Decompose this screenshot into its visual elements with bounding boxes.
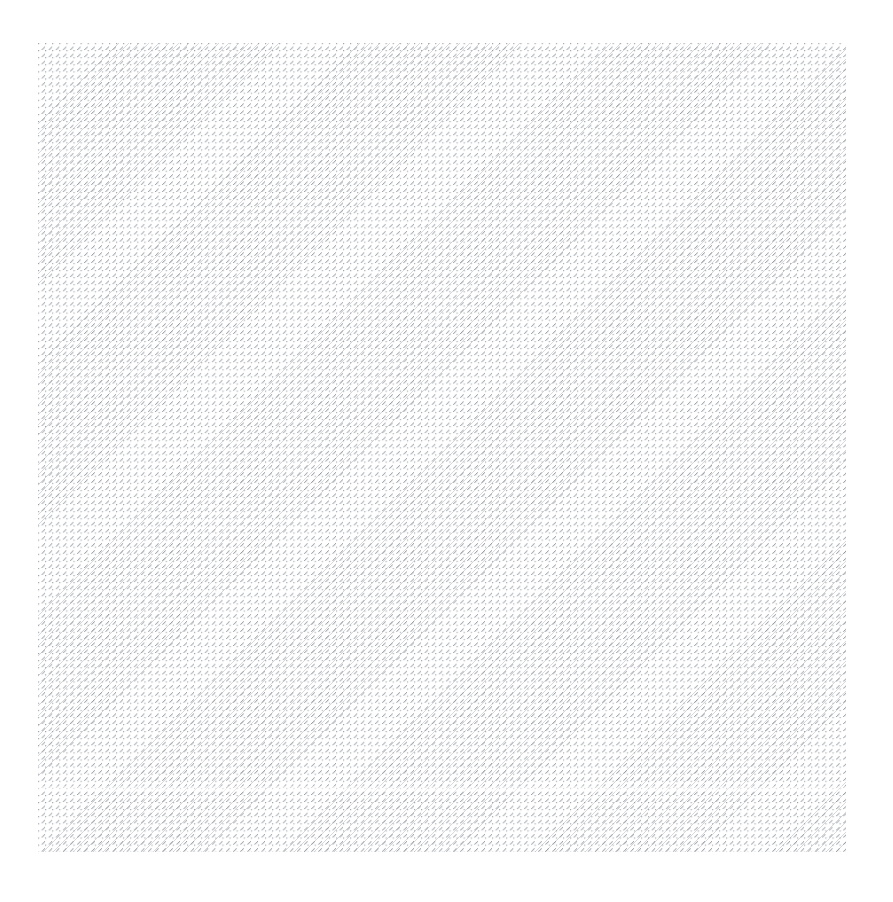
hatched-placeholder-region: [38, 43, 846, 852]
page-canvas: Blank white page containing a single lar…: [0, 0, 893, 902]
